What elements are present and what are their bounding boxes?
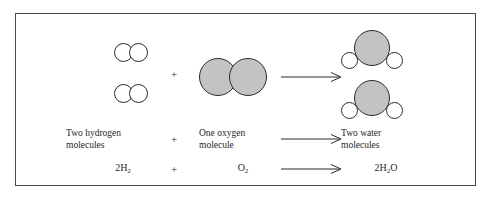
oxygen-atom-icon: [354, 30, 390, 66]
hydrogen-molecule-icon: [114, 84, 148, 103]
oxygen-atom-icon: [229, 58, 267, 96]
formula-hydrogen-subscript: 2: [127, 167, 131, 175]
arrow-right-icon: [281, 133, 343, 145]
oxygen-molecule-icon: [199, 58, 267, 96]
diagram-plus-operator: +: [168, 69, 180, 80]
water-molecule-icon: [341, 80, 403, 119]
formula-oxygen-subscript: 2: [245, 167, 249, 175]
arrow-right-icon: [281, 71, 343, 83]
caption-plus-operator: +: [168, 134, 180, 145]
product-label-water-line2: molecules: [341, 140, 451, 152]
figure-frame: + Two hydrogen molecule: [15, 13, 476, 186]
equation-plus-operator: +: [168, 164, 180, 175]
oxygen-atom-icon: [354, 80, 390, 116]
hydrogen-atom-icon: [129, 84, 148, 103]
reactant-label-hydrogen-line1: Two hydrogen: [66, 128, 176, 140]
hydrogen-molecule-icon: [114, 43, 148, 62]
arrow-right-icon: [281, 163, 343, 175]
reactant-label-hydrogen-line2: molecules: [66, 140, 176, 152]
formula-oxygen: O2: [208, 162, 278, 175]
formula-water: 2H2O: [346, 162, 426, 175]
reactant-label-hydrogen: Two hydrogen molecules: [66, 128, 176, 151]
formula-hydrogen: 2H2: [88, 162, 158, 175]
formula-water-element-o: O: [390, 162, 397, 173]
formula-water-element-h: H: [380, 162, 387, 173]
chemical-reaction-figure: + Two hydrogen molecule: [0, 0, 492, 201]
water-molecule-icon: [341, 30, 403, 69]
formula-oxygen-element: O: [238, 162, 245, 173]
hydrogen-atom-icon: [129, 43, 148, 62]
formula-water-subscript: 2: [387, 167, 391, 175]
product-label-water-line1: Two water: [341, 128, 451, 140]
product-label-water: Two water molecules: [341, 128, 451, 151]
